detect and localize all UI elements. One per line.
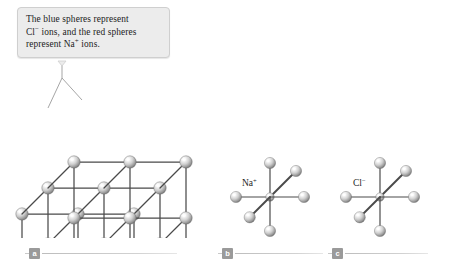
callout-line-2: ions, and the red spheres	[39, 27, 136, 37]
sodium-coordination-diagram: Na+	[214, 152, 326, 242]
callout-line-4: ions.	[79, 39, 100, 49]
na-ion-label: Na+	[242, 177, 257, 188]
panel-a-rule	[42, 253, 177, 254]
cl-ion-symbol: Cl	[353, 178, 362, 188]
callout-line-3: represent Na	[26, 39, 75, 49]
panel-b-badge: b	[222, 248, 233, 259]
panel-c-badge: c	[332, 248, 343, 259]
panel-label-c: c	[328, 247, 428, 259]
panel-c-rule	[345, 253, 428, 254]
cl-ion-charge: −	[362, 177, 366, 184]
panel-b-rule	[235, 253, 323, 254]
panel-label-b: b	[218, 247, 323, 259]
figure-root: The blue spheres represent Cl− ions, and…	[0, 0, 453, 269]
cl-ion-label: Cl−	[353, 177, 366, 188]
callout-line-1: The blue spheres represent	[26, 14, 129, 24]
panel-label-a: a	[25, 247, 177, 259]
na-ion-charge: +	[253, 177, 257, 184]
na-ion-symbol: Na	[242, 178, 254, 188]
callout-box: The blue spheres represent Cl− ions, and…	[17, 7, 170, 58]
panel-a-badge: a	[29, 248, 40, 259]
callout-chloride-symbol: Cl	[26, 27, 35, 37]
chloride-coordination-diagram: Cl−	[324, 152, 436, 242]
crystal-lattice-diagram	[8, 88, 198, 238]
